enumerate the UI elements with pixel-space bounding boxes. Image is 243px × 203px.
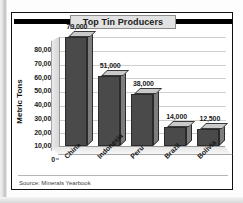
bar-side-face (153, 88, 159, 146)
chart-title-bar: Top Tin Producers (12, 15, 234, 29)
bar-china[interactable] (65, 37, 87, 146)
y-axis-title: Metric Tons (13, 61, 25, 141)
plot-wrapper: Metric Tons 010,00020,00030,00040,00050,… (12, 31, 234, 189)
y-axis-title-label: Metric Tons (15, 79, 24, 123)
bar-value-label: 79,000 (67, 23, 88, 30)
page-left-edge (0, 0, 7, 203)
bar-front-face (65, 37, 87, 146)
source-note: Source: Minerals Yearbook (19, 180, 91, 186)
plot-depth-wall (51, 37, 59, 151)
bar-value-label: 12,500 (199, 115, 220, 122)
y-axis-tick-label: 0 (51, 156, 55, 163)
plot-area: 79,00051,00038,00014,00012,500 (59, 37, 225, 147)
page-title: Top Tin Producers (83, 17, 163, 27)
bar-peru[interactable] (131, 94, 153, 146)
source-divider (18, 175, 228, 176)
page-bottom-edge (0, 197, 243, 203)
bar-side-face (87, 32, 93, 146)
bar-value-label: 38,000 (133, 80, 154, 87)
bar-value-label: 51,000 (100, 62, 121, 69)
page-background: Top Tin Producers Metric Tons 010,00020,… (0, 0, 243, 203)
bar-value-label: 14,000 (166, 113, 187, 120)
chart-frame: Top Tin Producers Metric Tons 010,00020,… (11, 12, 233, 190)
bar-front-face (131, 94, 153, 146)
